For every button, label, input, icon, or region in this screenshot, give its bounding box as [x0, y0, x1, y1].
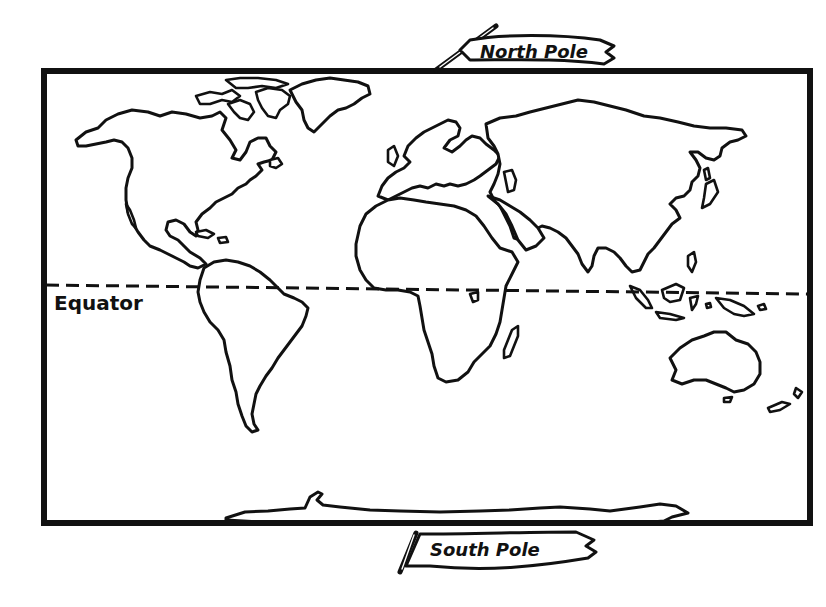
sumatra [630, 286, 652, 308]
java [656, 312, 684, 320]
north-america [76, 110, 276, 268]
north-pole-flag: North Pole [436, 26, 614, 70]
sakhalin [704, 168, 710, 180]
island-small-2 [758, 304, 766, 310]
south-pole-flag: South Pole [400, 532, 596, 572]
ellesmere-island [226, 78, 288, 88]
lake-victoria [470, 292, 478, 302]
world-map: Equator North Pole South Pole [0, 0, 826, 607]
australia [670, 332, 760, 392]
new-zealand-south [768, 402, 790, 412]
new-zealand-north [794, 388, 802, 398]
new-guinea [716, 298, 754, 316]
great-britain [388, 146, 398, 166]
greenland [290, 78, 370, 132]
south-pole-label: South Pole [430, 539, 540, 560]
tasmania [724, 397, 732, 402]
madagascar [504, 326, 518, 358]
newfoundland [270, 158, 282, 168]
baffin-island [256, 88, 290, 118]
antarctica [226, 492, 688, 524]
hispaniola [218, 237, 228, 243]
island-small-1 [706, 303, 711, 308]
equator-label: Equator [54, 291, 143, 315]
cuba [196, 230, 214, 238]
philippines [688, 252, 696, 272]
sulawesi [690, 296, 698, 310]
japan [702, 180, 718, 208]
north-pole-label: North Pole [480, 41, 588, 62]
arctic-islands-2 [228, 100, 254, 120]
